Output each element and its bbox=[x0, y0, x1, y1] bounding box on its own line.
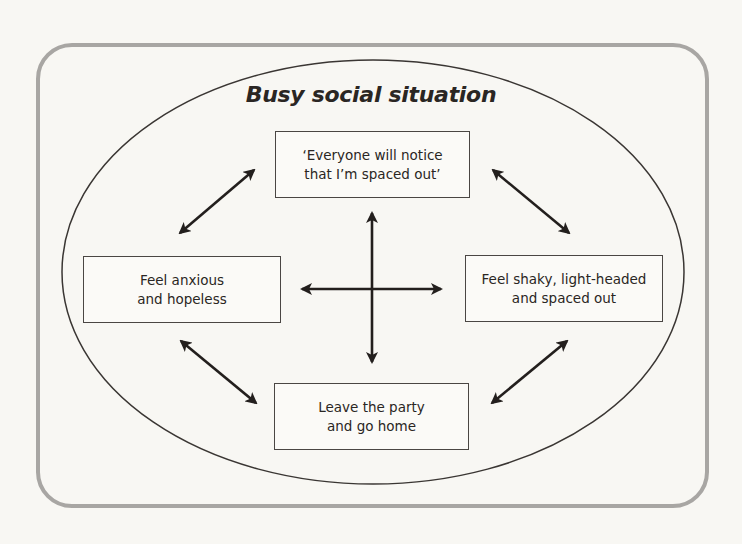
behaviour-line-2: and go home bbox=[318, 417, 425, 436]
behaviour-line-1: Leave the party bbox=[318, 398, 425, 417]
emotion-box: Feel anxious and hopeless bbox=[83, 256, 281, 323]
emotion-line-1: Feel anxious bbox=[137, 271, 227, 290]
behaviour-box: Leave the party and go home bbox=[274, 383, 469, 450]
bottom-right-arrow bbox=[492, 341, 567, 403]
physical-line-1: Feel shaky, light-headed bbox=[482, 270, 647, 289]
thought-box: ‘Everyone will notice that I’m spaced ou… bbox=[275, 131, 470, 198]
diagram-title: Busy social situation bbox=[0, 82, 742, 107]
thought-line-1: ‘Everyone will notice bbox=[302, 146, 442, 165]
physical-sensation-box: Feel shaky, light-headed and spaced out bbox=[465, 255, 663, 322]
thought-line-2: that I’m spaced out’ bbox=[302, 165, 442, 184]
top-left-arrow bbox=[180, 170, 254, 233]
emotion-line-2: and hopeless bbox=[137, 290, 227, 309]
physical-line-2: and spaced out bbox=[482, 289, 647, 308]
top-right-arrow bbox=[493, 170, 569, 233]
bottom-left-arrow bbox=[181, 341, 256, 403]
